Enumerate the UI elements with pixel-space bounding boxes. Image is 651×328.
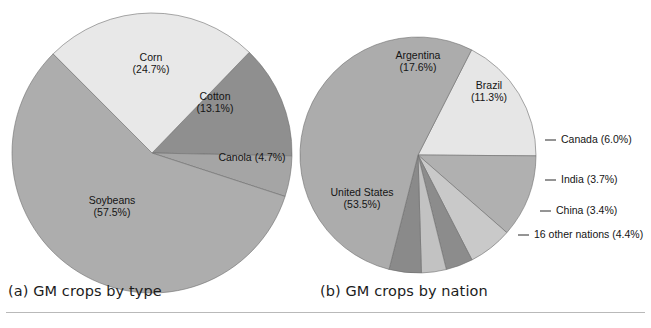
- caption-chart-b: (b) GM crops by nation: [320, 283, 488, 299]
- caption-chart-a: (a) GM crops by type: [8, 283, 162, 299]
- pie-label-argentina: Argentina(17.6%): [396, 49, 441, 73]
- pie-label-brazil: Brazil(11.3%): [471, 79, 507, 103]
- pie-label-canada: Canada (6.0%): [561, 133, 632, 145]
- pie-label-canola: Canola (4.7%): [218, 151, 285, 163]
- figure-gm-crops: Cotton(13.1%)Canola (4.7%)Soybeans(57.5%…: [0, 0, 651, 328]
- pie-label-cotton: Cotton(13.1%): [197, 90, 234, 114]
- pie-label-soybeans: Soybeans(57.5%): [89, 194, 136, 218]
- pie-gm-crops-by-type: Cotton(13.1%)Canola (4.7%)Soybeans(57.5%…: [12, 13, 292, 293]
- pie-charts-canvas: Cotton(13.1%)Canola (4.7%)Soybeans(57.5%…: [0, 0, 651, 328]
- pie-label-16-other-nations: 16 other nations (4.4%): [534, 228, 643, 240]
- pie-label-china: China (3.4%): [556, 204, 617, 216]
- pie-gm-crops-by-nation: Argentina(17.6%)Brazil(11.3%)Canada (6.0…: [300, 37, 643, 273]
- bottom-divider: [6, 312, 645, 313]
- pie-label-india: India (3.7%): [561, 173, 618, 185]
